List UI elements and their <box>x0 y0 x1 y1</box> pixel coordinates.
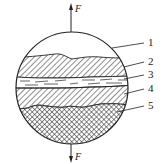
layered-specimen-diagram <box>0 0 164 164</box>
force-arrow-bottom <box>69 144 73 163</box>
arrow-up-icon <box>69 3 73 10</box>
layer-5 <box>10 104 135 150</box>
arrow-down-icon <box>69 156 73 163</box>
force-arrow-top <box>69 3 73 32</box>
